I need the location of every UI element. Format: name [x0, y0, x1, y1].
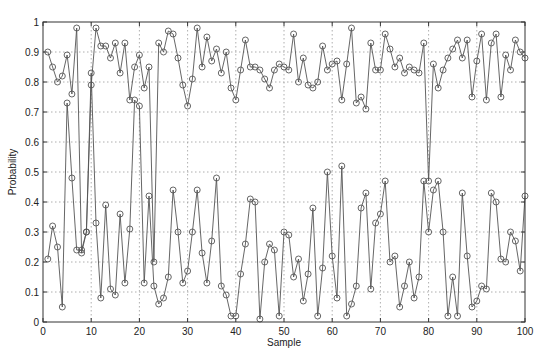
x-tick-label: 70 — [375, 326, 387, 337]
x-tick-label: 40 — [230, 326, 242, 337]
x-tick-label: 60 — [327, 326, 339, 337]
x-tick-label: 10 — [86, 326, 98, 337]
y-tick-label: 0.5 — [25, 167, 39, 178]
y-tick-label: 0.6 — [25, 137, 39, 148]
x-axis-label: Sample — [267, 337, 301, 348]
y-tick-label: 0 — [33, 317, 39, 328]
x-tick-label: 90 — [471, 326, 483, 337]
x-tick-label: 0 — [40, 326, 46, 337]
x-tick-label: 100 — [517, 326, 534, 337]
y-tick-label: 0.1 — [25, 287, 39, 298]
x-tick-label: 30 — [182, 326, 194, 337]
probability-line-chart: 010203040506070809010000.10.20.30.40.50.… — [0, 0, 545, 357]
y-tick-label: 0.2 — [25, 257, 39, 268]
y-tick-label: 0.4 — [25, 197, 39, 208]
y-tick-label: 1 — [33, 17, 39, 28]
y-axis-label: Probability — [7, 149, 18, 196]
x-tick-label: 50 — [278, 326, 290, 337]
x-tick-label: 20 — [134, 326, 146, 337]
y-tick-label: 0.9 — [25, 47, 39, 58]
y-tick-label: 0.7 — [25, 107, 39, 118]
x-tick-label: 80 — [423, 326, 435, 337]
y-tick-label: 0.3 — [25, 227, 39, 238]
y-tick-label: 0.8 — [25, 77, 39, 88]
